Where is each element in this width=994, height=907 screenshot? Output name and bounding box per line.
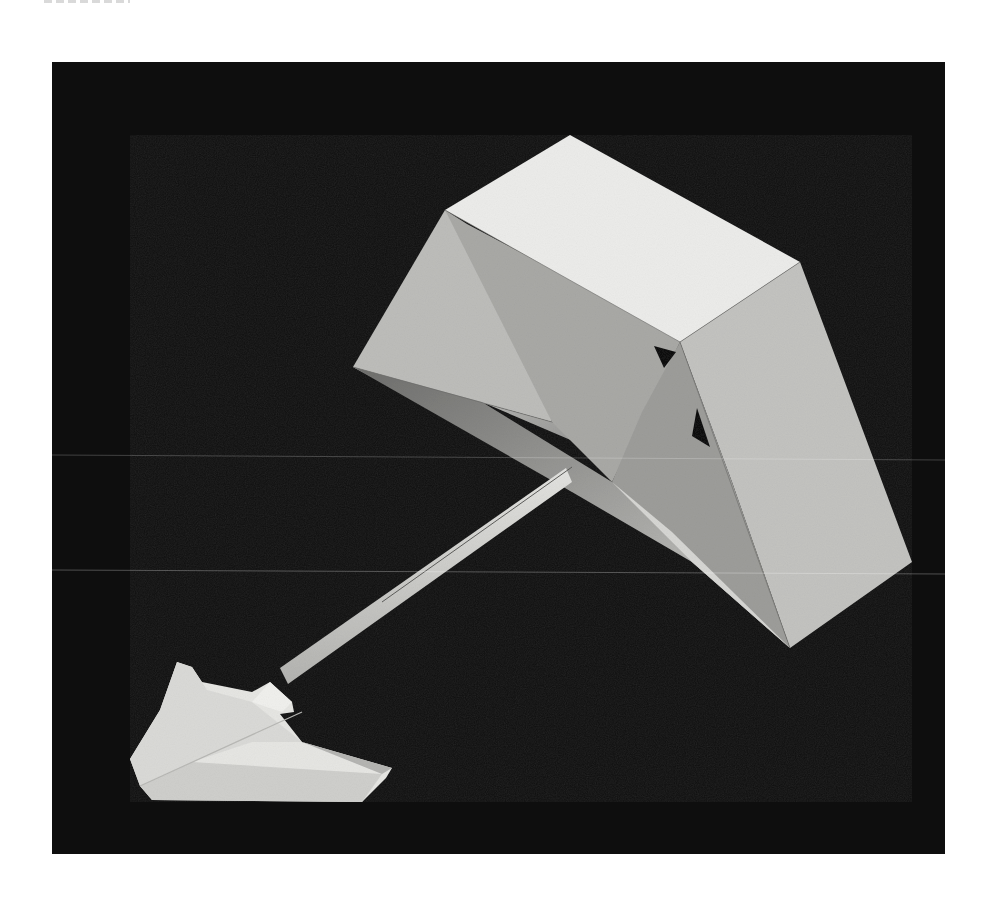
arrowhead: [130, 662, 392, 802]
photograph: folded white paper arrow sculpture on bl…: [52, 62, 945, 854]
cropped-text-fragment: [44, 0, 130, 3]
arrow-shaft: [280, 468, 572, 684]
paper-arrow-sculpture: [52, 62, 945, 854]
